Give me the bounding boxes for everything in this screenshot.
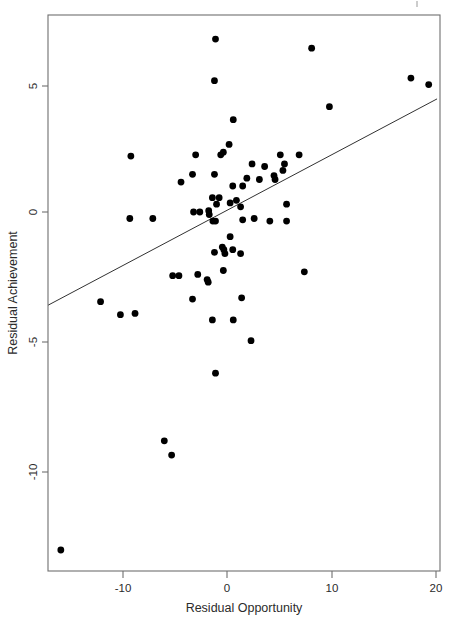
data-point bbox=[211, 249, 218, 256]
data-point bbox=[192, 151, 199, 158]
data-point bbox=[229, 183, 236, 190]
data-point bbox=[212, 218, 219, 225]
data-point bbox=[425, 81, 432, 88]
data-point bbox=[408, 75, 415, 82]
data-point bbox=[301, 268, 308, 275]
data-point bbox=[209, 317, 216, 324]
y-tick-label-5: 5 bbox=[27, 83, 39, 89]
data-point bbox=[220, 267, 227, 274]
data-point bbox=[227, 233, 234, 240]
scatter-markers-group bbox=[57, 36, 432, 554]
data-point bbox=[239, 183, 246, 190]
x-tick-label-10: 10 bbox=[326, 582, 339, 594]
data-point bbox=[239, 216, 246, 223]
data-point bbox=[220, 149, 227, 156]
data-point bbox=[216, 194, 223, 201]
data-point bbox=[132, 310, 139, 317]
data-point bbox=[211, 171, 218, 178]
data-point bbox=[296, 151, 303, 158]
data-point bbox=[189, 171, 196, 178]
data-point bbox=[277, 151, 284, 158]
y-axis-ticks bbox=[42, 86, 48, 472]
data-point bbox=[161, 437, 168, 444]
y-tick-label-minus-10: -10 bbox=[27, 464, 39, 481]
plot-frame bbox=[48, 15, 440, 571]
data-point bbox=[222, 250, 229, 257]
data-point bbox=[233, 197, 240, 204]
data-point bbox=[211, 77, 218, 84]
data-point bbox=[238, 294, 245, 301]
data-point bbox=[97, 298, 104, 305]
data-point bbox=[206, 211, 213, 218]
data-point bbox=[127, 153, 134, 160]
data-point bbox=[194, 271, 201, 278]
data-point bbox=[272, 176, 279, 183]
data-point bbox=[326, 103, 333, 110]
x-axis-title: Residual Opportunity bbox=[186, 601, 303, 615]
data-point bbox=[280, 167, 287, 174]
x-tick-label-0: 0 bbox=[224, 582, 230, 594]
data-point bbox=[117, 311, 124, 318]
data-point bbox=[57, 547, 64, 554]
data-point bbox=[227, 200, 234, 207]
y-axis-tick-labels: 5 0 -5 -10 bbox=[27, 83, 39, 481]
x-tick-label-20: 20 bbox=[430, 582, 443, 594]
data-point bbox=[243, 175, 250, 182]
data-point bbox=[237, 203, 244, 210]
data-point bbox=[249, 161, 256, 168]
scatter-plot-figure: 5 0 -5 -10 -10 0 10 20 Residual Achievem… bbox=[0, 0, 464, 623]
y-axis-title: Residual Achievement bbox=[6, 231, 20, 355]
data-point bbox=[237, 250, 244, 257]
data-point bbox=[169, 272, 176, 279]
data-point bbox=[230, 317, 237, 324]
x-axis-tick-labels: -10 0 10 20 bbox=[115, 582, 443, 594]
data-point bbox=[178, 179, 185, 186]
x-axis-ticks bbox=[123, 571, 436, 578]
y-tick-label-minus-5: -5 bbox=[27, 337, 39, 347]
data-point bbox=[205, 279, 212, 286]
data-point bbox=[308, 45, 315, 52]
data-point bbox=[281, 161, 288, 168]
x-tick-label-minus-10: -10 bbox=[115, 582, 132, 594]
data-point bbox=[126, 215, 133, 222]
data-point bbox=[226, 141, 233, 148]
data-point bbox=[189, 296, 196, 303]
data-point bbox=[283, 218, 290, 225]
data-point bbox=[149, 215, 156, 222]
data-point bbox=[209, 194, 216, 201]
data-point bbox=[196, 209, 203, 216]
data-point bbox=[212, 370, 219, 377]
data-point bbox=[212, 36, 219, 43]
data-point bbox=[248, 337, 255, 344]
scatter-plot-svg: 5 0 -5 -10 -10 0 10 20 Residual Achievem… bbox=[0, 0, 464, 623]
regression-line bbox=[48, 99, 437, 305]
data-point bbox=[168, 452, 175, 459]
y-tick-label-0: 0 bbox=[27, 209, 39, 215]
data-point bbox=[176, 272, 183, 279]
data-point bbox=[266, 218, 273, 225]
data-point bbox=[261, 163, 268, 170]
data-point bbox=[190, 209, 197, 216]
data-point bbox=[229, 246, 236, 253]
data-point bbox=[256, 176, 263, 183]
data-point bbox=[283, 201, 290, 208]
data-point bbox=[230, 116, 237, 123]
data-point bbox=[251, 215, 258, 222]
data-point bbox=[213, 201, 220, 208]
